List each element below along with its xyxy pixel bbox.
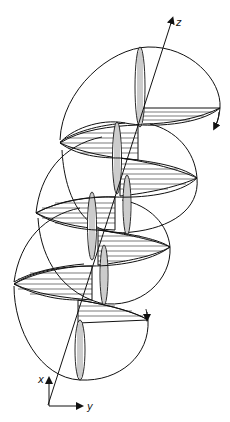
left-lobe-2 [36,197,115,230]
polarization-diagram: z x y [0,0,230,422]
right-lobe-4 [78,300,148,323]
y-axis-label: y [86,401,94,412]
top-rotation-arrow-icon [215,112,219,127]
x-axis-label: x [37,374,44,385]
z-axis-line [48,20,172,405]
left-lobe-1 [60,125,138,160]
rotation-arrows [147,112,219,318]
envelope-arcs [14,47,220,380]
diagram-canvas: z x y [0,0,230,422]
z-axis-label: z [175,17,182,28]
